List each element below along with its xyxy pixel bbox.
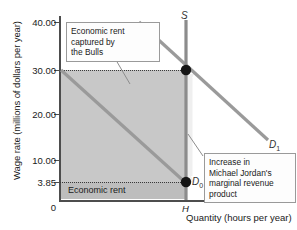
economic-rent-label: Economic rent bbox=[68, 185, 126, 195]
callout-rent-line2: captured by bbox=[71, 37, 155, 48]
curve-label-d1: D1 bbox=[269, 139, 280, 152]
curve-label-d0: D0 bbox=[192, 176, 203, 189]
callout-mrp-line4: product bbox=[209, 189, 291, 200]
equilibrium-point-new bbox=[181, 65, 191, 75]
y-axis-title: Wage rate (millions of dollars per year) bbox=[11, 21, 22, 181]
callout-rent-line1: Economic rent bbox=[71, 26, 155, 37]
callout-mrp-line3: marginal revenue bbox=[209, 178, 291, 189]
equilibrium-point-old bbox=[181, 177, 191, 187]
callout-economic-rent-captured: Economic rent captured by the Bulls bbox=[66, 22, 160, 62]
curve-label-s: S bbox=[181, 10, 188, 21]
x-axis-title: Quantity (hours per year) bbox=[186, 212, 292, 223]
callout-mrp-line1: Increase in bbox=[209, 157, 291, 168]
curve-label-d0-sub: 0 bbox=[199, 182, 203, 189]
callout-rent-line3: the Bulls bbox=[71, 47, 155, 58]
callout-mrp-line2: Michael Jordan's bbox=[209, 168, 291, 179]
curve-label-d1-sub: 1 bbox=[276, 145, 280, 152]
demand-curve-d0 bbox=[61, 70, 187, 184]
chart-figure: 40.00 30.00 20.00 10.00 3.85 0 S D0 bbox=[0, 0, 297, 230]
callout-mrp-increase: Increase in Michael Jordan's marginal re… bbox=[204, 153, 296, 203]
